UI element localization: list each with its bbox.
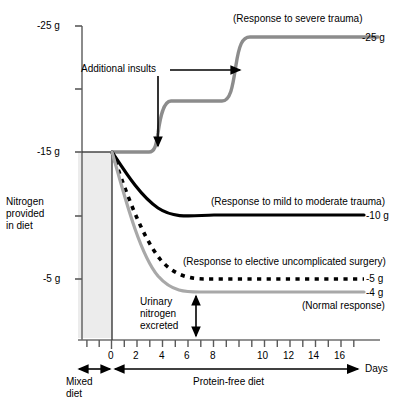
mixed-diet-label-line-1: Mixed: [66, 376, 116, 388]
severe-trauma-label: (Response to severe trauma): [233, 13, 363, 25]
x-tick-label-2: 2: [133, 350, 139, 362]
x-tick-label-4: 4: [159, 350, 165, 362]
y-axis-title-line-3: in diet: [6, 220, 74, 232]
normal-response-label: (Normal response): [302, 300, 385, 312]
y-tick-label-minus5: -5 g: [43, 273, 60, 285]
normal-response-value: -4 g: [366, 287, 383, 299]
x-axis-title-days: Days: [365, 363, 388, 375]
x-tick-label-0: 0: [108, 350, 114, 362]
y-axis-title-line-1: Nitrogen: [6, 196, 74, 208]
urinary-nitrogen-excreted-label: Urinary nitrogen excreted: [140, 296, 194, 332]
mild-moderate-trauma-value: -10 g: [366, 210, 389, 222]
nitrogen-balance-figure: -25 g -15 g -5 g Nitrogen provided in di…: [0, 0, 404, 408]
urinary-nitrogen-line-3: excreted: [140, 320, 194, 332]
y-tick-label-minus15: -15 g: [37, 146, 60, 158]
x-tick-label-16: 16: [334, 350, 345, 362]
y-tick-label-minus25: -25 g: [37, 20, 60, 32]
protein-free-diet-label: Protein-free diet: [193, 376, 264, 388]
x-tick-label-14: 14: [308, 350, 319, 362]
x-tick-label-8: 8: [210, 350, 216, 362]
x-tick-label-6: 6: [184, 350, 190, 362]
y-axis-title-line-2: provided: [6, 208, 74, 220]
elective-surgery-value: -5 g: [366, 273, 383, 285]
mixed-diet-label: Mixed diet: [66, 376, 116, 400]
x-axis-ticks: [87, 340, 354, 349]
curve-severe-trauma: [112, 37, 378, 152]
urinary-nitrogen-line-1: Urinary: [140, 296, 194, 308]
y-axis-title: Nitrogen provided in diet: [6, 196, 74, 232]
additional-insults-label: Additional insults: [81, 63, 156, 75]
elective-surgery-label: (Response to elective uncomplicated surg…: [183, 256, 386, 268]
x-tick-label-10: 10: [257, 350, 268, 362]
mixed-diet-label-line-2: diet: [66, 388, 116, 400]
x-tick-label-12: 12: [283, 350, 294, 362]
mild-moderate-trauma-label: (Response to mild to moderate trauma): [211, 196, 385, 208]
mixed-diet-shaded-region: [78, 152, 112, 338]
severe-trauma-value: -25 g: [362, 32, 385, 44]
urinary-nitrogen-line-2: nitrogen: [140, 308, 194, 320]
curve-normal-response: [112, 152, 364, 292]
